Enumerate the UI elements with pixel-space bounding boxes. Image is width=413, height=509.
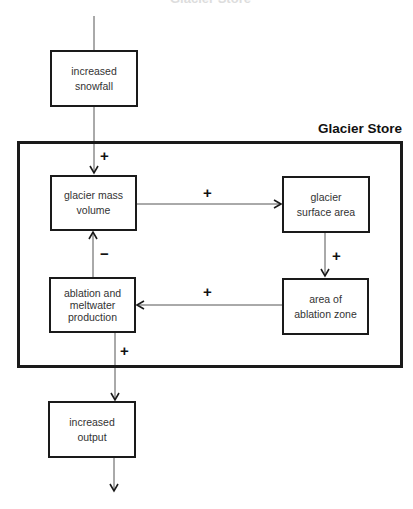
node-label: increased <box>69 415 115 430</box>
node-label: ablation and <box>64 287 121 299</box>
node-label: output <box>69 430 115 445</box>
node-area-of-ablation-zone: area ofablation zone <box>282 278 369 335</box>
node-label: area of <box>294 292 356 307</box>
node-label: increased <box>71 64 117 79</box>
node-increased-snowfall: increasedsnowfall <box>50 50 138 107</box>
node-label: surface area <box>297 205 355 220</box>
node-label: glacier mass <box>64 188 123 203</box>
node-increased-output: increasedoutput <box>48 401 136 458</box>
sign-surface-to-zone: + <box>332 248 341 263</box>
glacier-store-label: Glacier Store <box>318 121 402 136</box>
node-glacier-surface-area: glaciersurface area <box>282 176 370 233</box>
sign-ablation-to-output: + <box>120 343 129 358</box>
node-ablation-meltwater-production: ablation andmeltwaterproduction <box>49 277 136 333</box>
node-glacier-mass-volume: glacier massvolume <box>50 175 137 231</box>
node-label: glacier <box>297 190 355 205</box>
sign-zone-to-ablation: + <box>203 284 212 299</box>
sign-ablation-to-mass: − <box>100 246 109 261</box>
node-label: production <box>64 311 121 323</box>
node-label: ablation zone <box>294 307 356 322</box>
node-label: meltwater <box>64 299 121 311</box>
node-label: volume <box>64 203 123 218</box>
sign-mass-to-surface: + <box>203 185 212 200</box>
node-label: snowfall <box>71 79 117 94</box>
sign-snowfall-to-mass: + <box>100 148 109 163</box>
